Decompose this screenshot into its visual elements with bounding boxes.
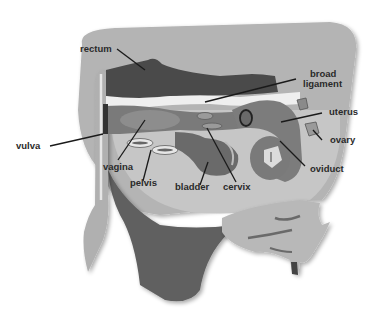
hoof [291, 262, 298, 275]
cervix-ring-2 [202, 123, 222, 129]
label-oviduct: oviduct [310, 163, 345, 174]
cervix-ring-1 [197, 113, 213, 120]
reproductive-tract-diagram: rectum broad ligament uterus ovary vulva… [0, 0, 377, 324]
pelvis-bone-mark-2 [157, 149, 173, 152]
label-ovary: ovary [330, 134, 356, 145]
label-vulva: vulva [16, 140, 41, 151]
label-pelvis: pelvis [130, 177, 157, 188]
uterus-band [240, 110, 252, 126]
vulva-opening [103, 104, 108, 134]
label-vagina: vagina [103, 161, 134, 172]
label-cervix: cervix [223, 181, 251, 192]
label-bladder: bladder [175, 181, 210, 192]
pelvis-bone-mark-1 [132, 142, 148, 145]
vagina-highlight [120, 110, 180, 130]
label-rectum: rectum [80, 43, 112, 54]
label-uterus: uterus [329, 106, 358, 117]
label-ligament: ligament [303, 78, 343, 89]
